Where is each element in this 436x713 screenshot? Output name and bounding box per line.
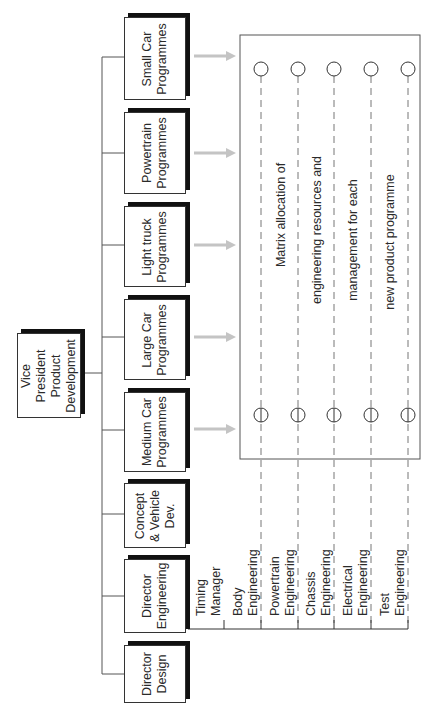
small-car-programmes-box: Small Car Programmes <box>124 17 186 100</box>
engineering-ticks <box>224 620 408 629</box>
small-car-label: Small Car Programmes <box>140 23 170 95</box>
concept-vehicle-dev-box: Concept & Vehicle Dev. <box>124 483 186 548</box>
large-car-programmes-box: Large Car Programmes <box>124 299 186 380</box>
function-label-test-engineering: Test Engineering <box>378 549 408 616</box>
function-label-powertrain-engineering: Powertrain Engineering <box>268 549 298 616</box>
arrow-right-icon <box>194 148 236 158</box>
director-engineering-label: Director Engineering <box>140 563 170 630</box>
concept-label: Concept & Vehicle Dev. <box>133 489 178 541</box>
medium-car-programmes-box: Medium Car Programmes <box>124 392 186 472</box>
light-truck-programmes-box: Light truck Programmes <box>124 206 186 287</box>
function-label-electrical-engineering: Electrical Engineering <box>341 549 371 616</box>
arrow-right-icon <box>194 424 236 434</box>
medium-car-label: Medium Car Programmes <box>140 396 170 468</box>
arrow-right-icon <box>194 332 236 342</box>
matrix-text-line-1: Matrix allocation of <box>274 163 288 267</box>
director-design-label: Director Design <box>140 652 170 696</box>
arrow-right-icon <box>194 51 236 61</box>
vp-product-development-box: Vice President Product Development <box>17 333 81 418</box>
light-truck-label: Light truck Programmes <box>140 211 170 283</box>
matrix-dashed-lines <box>261 76 408 624</box>
matrix-bottom-circles <box>254 408 415 422</box>
powertrain-programmes-box: Powertrain Programmes <box>124 112 186 194</box>
function-label-timing-manager: Timing Manager <box>194 567 224 616</box>
vp-label: Vice President Product Development <box>19 339 79 413</box>
arrow-icons <box>194 51 236 434</box>
function-label-body-engineering: Body Engineering <box>231 549 261 616</box>
matrix-text-line-3: management for each <box>346 179 360 301</box>
branch-lines <box>102 57 124 674</box>
arrow-right-icon <box>194 240 236 250</box>
powertrain-label: Powertrain Programmes <box>140 117 170 189</box>
matrix-top-circles <box>254 62 415 76</box>
director-design-box: Director Design <box>124 645 186 703</box>
director-engineering-box: Director Engineering <box>124 559 186 633</box>
matrix-text-line-4: new product programme <box>383 174 397 309</box>
matrix-text-line-2: engineering resources and <box>310 156 324 304</box>
large-car-label: Large Car Programmes <box>140 304 170 376</box>
function-label-chassis-engineering: Chassis Engineering <box>304 549 334 616</box>
